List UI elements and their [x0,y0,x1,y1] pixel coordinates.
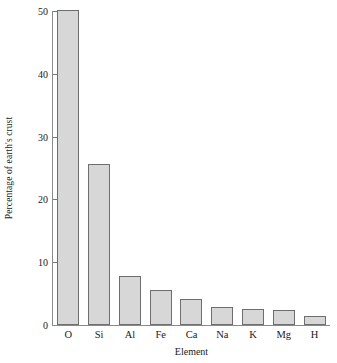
y-tick-label: 50 [24,6,48,17]
y-axis-title: Percentage of earth's crust [0,0,18,335]
x-tick-label: Mg [277,329,292,340]
bar-slot [84,11,115,325]
y-tick-label: 40 [24,68,48,79]
bar [273,310,295,325]
x-tick-label: Ca [186,329,198,340]
bar [57,10,79,325]
x-axis-title: Element [53,346,330,357]
x-tick-label: Fe [155,329,166,340]
x-tick-label: O [65,329,73,340]
bar [242,309,264,325]
bar [211,307,233,325]
x-axis-line [52,325,330,326]
y-tick-label: 30 [24,131,48,142]
x-tick-label: Na [216,329,228,340]
y-tick-label: 10 [24,257,48,268]
bar-slot [115,11,146,325]
y-tick-label: 0 [24,320,48,331]
bar [150,290,172,325]
bar-chart: Percentage of earth's crust 01020304050 … [0,0,337,363]
y-tick-label: 20 [24,194,48,205]
bar-slot [53,11,84,325]
y-axis-tick-labels: 01020304050 [20,0,48,363]
bar [119,276,141,325]
bar-slot [145,11,176,325]
x-tick-label: Al [125,329,136,340]
plot-area [53,11,330,325]
x-tick-label: K [249,329,257,340]
bar-slot [207,11,238,325]
bar [304,316,326,325]
y-axis-title-text: Percentage of earth's crust [4,116,14,218]
bar-slot [268,11,299,325]
x-tick-label: Si [95,329,104,340]
bar [88,164,110,325]
x-tick-label: H [311,329,319,340]
bar-slot [238,11,269,325]
bar-slot [299,11,330,325]
bar-slot [176,11,207,325]
bar [180,299,202,325]
x-axis-tick-labels: OSiAlFeCaNaKMgH [53,329,330,345]
